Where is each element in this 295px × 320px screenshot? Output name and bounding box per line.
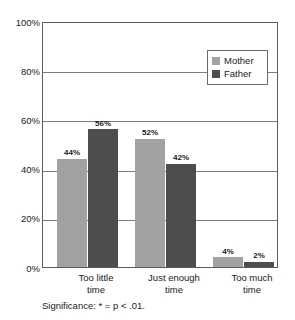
gridline-20 bbox=[43, 220, 277, 221]
gridline-40 bbox=[43, 171, 277, 172]
chart-legend: Mother Father bbox=[207, 50, 268, 85]
legend-label-father: Father bbox=[224, 69, 251, 79]
legend-item-father: Father bbox=[212, 67, 263, 80]
legend-label-mother: Mother bbox=[224, 56, 254, 66]
x-axis-category-line: time bbox=[135, 284, 213, 296]
x-axis-category-too-much-time: Too much time bbox=[213, 272, 291, 295]
y-axis-tick-label: 100% bbox=[0, 18, 40, 28]
y-axis-tick-label: 80% bbox=[0, 67, 40, 77]
legend-item-mother: Mother bbox=[212, 54, 263, 67]
legend-swatch-icon-father bbox=[212, 70, 220, 78]
y-axis-tick-label: 0% bbox=[0, 264, 40, 274]
legend-swatch-icon-mother bbox=[212, 57, 220, 65]
y-axis-tick-label: 20% bbox=[0, 214, 40, 224]
y-axis-tick-label: 40% bbox=[0, 165, 40, 175]
significance-footnote: Significance: * = p < .01. bbox=[42, 300, 145, 311]
x-axis-category-line: Too much bbox=[213, 272, 291, 284]
gridline-60 bbox=[43, 121, 277, 122]
bar-chart-figure: 100% 80% 60% 40% 20% 0% 44% 56% 52% 42% … bbox=[0, 0, 295, 320]
x-axis-category-line: time bbox=[213, 284, 291, 296]
x-axis-category-just-enough-time: Just enough time bbox=[135, 272, 213, 295]
y-axis-tick-label: 60% bbox=[0, 116, 40, 126]
x-axis-category-too-little-time: Too little time bbox=[57, 272, 135, 295]
x-axis-category-line: Just enough bbox=[135, 272, 213, 284]
x-axis-category-line: Too little bbox=[57, 272, 135, 284]
x-axis-category-line: time bbox=[57, 284, 135, 296]
